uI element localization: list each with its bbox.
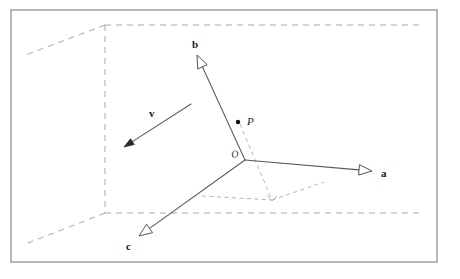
point-p-label: P: [246, 115, 254, 127]
vector-group: [124, 55, 372, 236]
vector-b-shaft: [202, 67, 245, 160]
vector-a-label: a: [381, 167, 387, 179]
projection-arrowhead: [267, 195, 277, 201]
vector-v-label: v: [149, 107, 155, 119]
box-depth-upper: [23, 25, 105, 56]
vector-diagram-canvas: O P abcv: [0, 0, 460, 279]
projection-construction: [202, 124, 324, 201]
vector-v-shaft: [132, 104, 191, 142]
vector-a-shaft: [245, 160, 359, 170]
vector-c-arrowhead: [139, 224, 153, 236]
projection-foot-to-a: [272, 182, 324, 200]
vector-v-arrowhead: [124, 139, 134, 147]
origin-label: O: [230, 148, 239, 160]
outer-border: [11, 10, 437, 262]
dashed-bounding-box: [23, 25, 422, 245]
vector-c-shaft: [150, 160, 245, 228]
vector-c-label: c: [126, 240, 131, 252]
box-depth-lower: [23, 213, 105, 245]
vector-a-arrowhead: [359, 165, 372, 175]
vector-b-label: b: [192, 38, 198, 50]
figure-root: O P abcv: [0, 0, 460, 279]
vector-label-group: abcv: [126, 38, 387, 252]
vector-b-arrowhead: [197, 55, 207, 69]
projection-origin-to-c: [202, 196, 272, 200]
point-p-dot: [236, 120, 240, 124]
